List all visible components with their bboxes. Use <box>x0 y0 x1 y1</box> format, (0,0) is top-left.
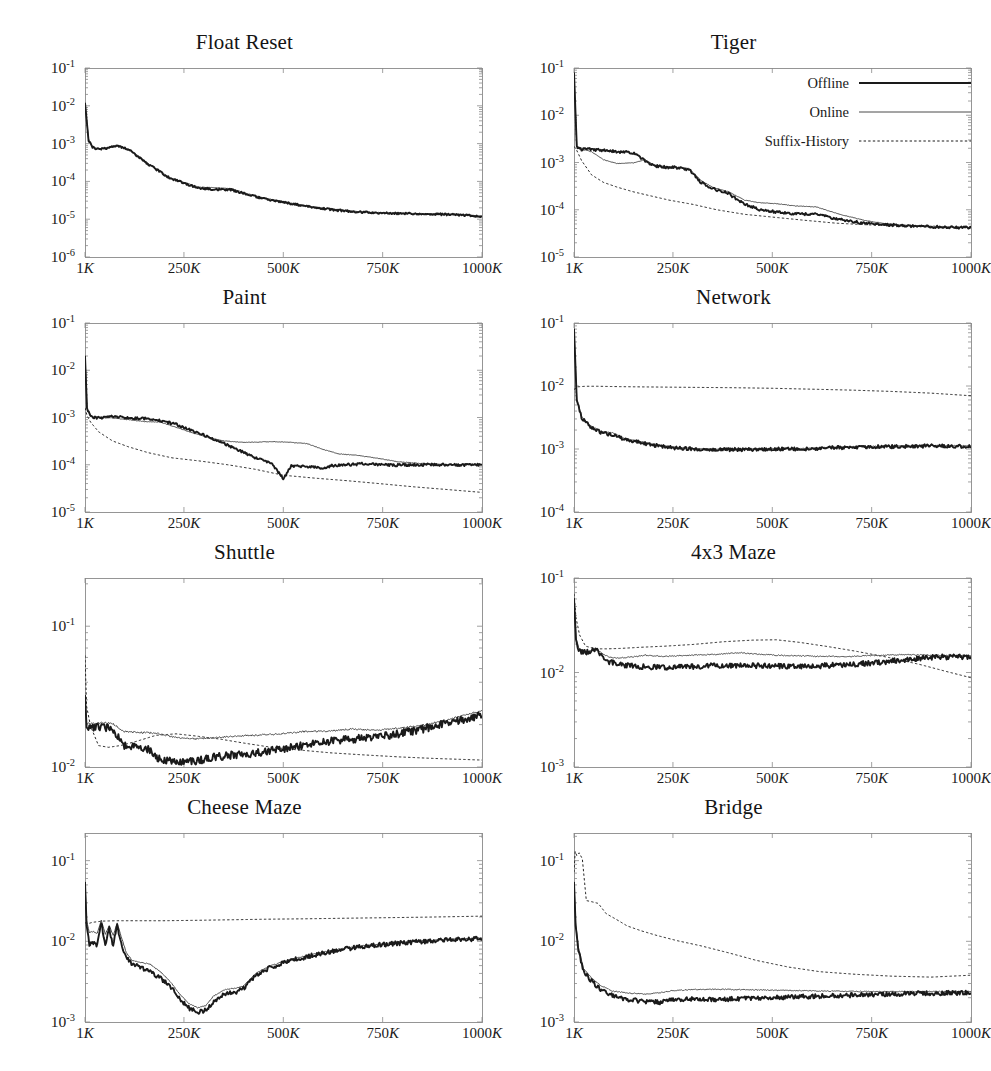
x-tick-label: 500K <box>756 1025 789 1042</box>
y-tick-label: 10-2 <box>497 377 564 395</box>
y-tick-label: 10-1 <box>497 569 564 587</box>
series-line-online <box>85 882 482 1009</box>
y-tick-label: 10-1 <box>8 617 75 635</box>
y-tick-label: 10-2 <box>8 97 75 115</box>
x-tick-label: 1000K <box>951 770 991 787</box>
x-tick-label: 1K <box>565 515 583 532</box>
series-line-offline <box>574 72 971 228</box>
series-line-online <box>85 103 482 216</box>
x-tick-label: 1000K <box>951 515 991 532</box>
panel-title: Cheese Maze <box>0 795 489 820</box>
x-tick-label: 750K <box>366 260 399 277</box>
series-line-online <box>574 329 971 449</box>
legend-swatch-solid <box>859 80 971 86</box>
plot-area <box>85 578 484 769</box>
x-tick-label: 500K <box>756 770 789 787</box>
x-tick-label: 1K <box>76 1025 94 1042</box>
series-line-online <box>574 597 971 658</box>
panel-title: Bridge <box>489 795 978 820</box>
legend-label: Suffix-History <box>765 133 849 150</box>
x-tick-label: 1K <box>565 260 583 277</box>
plot-area <box>574 323 973 514</box>
series-line-online <box>85 356 482 465</box>
legend-item-offline: Offline <box>724 76 971 90</box>
plot-frame <box>86 834 483 1023</box>
x-tick-label: 250K <box>168 1025 201 1042</box>
y-tick-label: 10-2 <box>8 361 75 379</box>
y-tick-label: 10-2 <box>497 106 564 124</box>
y-tick-label: 10-4 <box>497 201 564 219</box>
x-tick-label: 1K <box>565 770 583 787</box>
x-tick-label: 1000K <box>951 1025 991 1042</box>
x-tick-label: 1K <box>76 515 94 532</box>
x-tick-label: 250K <box>657 1025 690 1042</box>
panel-cheese-maze: Cheese Maze10-110-210-31K250K500K750K100… <box>0 795 489 1050</box>
panel-float-reset: Float Reset10-110-210-310-410-510-61K250… <box>0 30 489 285</box>
panel-shuttle: Shuttle10-110-21K250K500K750K1000K <box>0 540 489 795</box>
x-tick-label: 500K <box>756 260 789 277</box>
x-tick-label: 250K <box>168 770 201 787</box>
y-tick-label: 10-4 <box>8 172 75 190</box>
x-tick-label: 250K <box>657 770 690 787</box>
y-tick-label: 10-1 <box>8 59 75 77</box>
x-tick-label: 1000K <box>951 260 991 277</box>
plot-frame <box>575 324 972 513</box>
plot-frame <box>575 579 972 768</box>
y-tick-label: 10-1 <box>497 314 564 332</box>
plot-area <box>574 578 973 769</box>
series-line-offline <box>574 329 971 451</box>
series-line-suffix-history <box>574 146 971 227</box>
x-tick-label: 750K <box>855 260 888 277</box>
series-line-suffix-history <box>574 851 971 977</box>
panel-network: Network10-110-210-310-41K250K500K750K100… <box>489 285 978 540</box>
series-line-suffix-history <box>85 655 482 760</box>
y-tick-label: 10-3 <box>497 440 564 458</box>
legend-swatch-solid <box>859 109 971 115</box>
plot-frame <box>86 69 483 258</box>
panel-title: Shuttle <box>0 540 489 565</box>
y-tick-label: 10-3 <box>8 1013 75 1031</box>
y-tick-label: 10-2 <box>497 664 564 682</box>
series-line-offline <box>574 882 971 1004</box>
x-tick-label: 750K <box>366 515 399 532</box>
y-tick-label: 10-2 <box>8 932 75 950</box>
plot-area <box>85 833 484 1024</box>
panel-title: Paint <box>0 285 489 310</box>
y-tick-label: 10-4 <box>8 456 75 474</box>
panel-4x3-maze: 4x3 Maze10-110-210-31K250K500K750K1000K <box>489 540 978 795</box>
legend-swatch-dotted <box>859 138 971 144</box>
series-line-suffix-history <box>85 916 482 924</box>
y-tick-label: 10-2 <box>497 932 564 950</box>
x-tick-label: 1K <box>565 1025 583 1042</box>
x-tick-label: 500K <box>267 515 300 532</box>
plot-area <box>574 833 973 1024</box>
x-tick-label: 750K <box>855 770 888 787</box>
y-tick-label: 10-2 <box>8 758 75 776</box>
legend-item-online: Online <box>724 105 971 119</box>
panel-paint: Paint10-110-210-310-410-51K250K500K750K1… <box>0 285 489 540</box>
y-tick-label: 10-5 <box>8 503 75 521</box>
panel-title: 4x3 Maze <box>489 540 978 565</box>
plot-area <box>85 323 484 514</box>
y-tick-label: 10-3 <box>8 135 75 153</box>
panel-title: Network <box>489 285 978 310</box>
panel-bridge: Bridge10-110-210-31K250K500K750K1000K <box>489 795 978 1050</box>
y-tick-label: 10-1 <box>8 314 75 332</box>
plot-area <box>85 68 484 259</box>
x-tick-label: 500K <box>756 515 789 532</box>
series-line-suffix-history <box>574 386 971 395</box>
x-tick-label: 1K <box>76 260 94 277</box>
x-tick-label: 250K <box>657 515 690 532</box>
panel-title: Tiger <box>489 30 978 55</box>
y-tick-label: 10-3 <box>497 154 564 172</box>
y-tick-label: 10-5 <box>8 210 75 228</box>
y-tick-label: 10-3 <box>8 409 75 427</box>
x-tick-label: 250K <box>168 260 201 277</box>
y-tick-label: 10-1 <box>497 852 564 870</box>
y-tick-label: 10-1 <box>8 852 75 870</box>
y-tick-label: 10-4 <box>497 503 564 521</box>
y-tick-label: 10-1 <box>497 59 564 77</box>
x-tick-label: 750K <box>366 1025 399 1042</box>
series-line-online <box>574 882 971 995</box>
